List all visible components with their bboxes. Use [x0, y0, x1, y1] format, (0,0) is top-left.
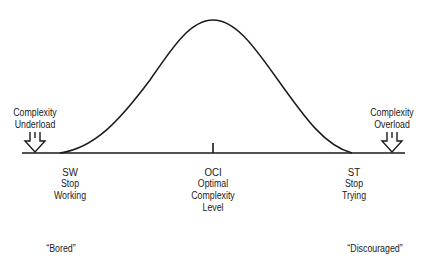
- point-abbr: OCI: [184, 166, 242, 178]
- complexity-underload-label: Complexity Underload: [6, 107, 64, 131]
- label-line: Complexity: [184, 190, 242, 202]
- label-line: Overload: [364, 119, 420, 131]
- label-line: Trying: [334, 190, 374, 202]
- double-down-arrow-icon: [382, 132, 402, 152]
- label-line: Optimal: [184, 178, 242, 190]
- stop-trying-label: ST Stop Trying: [334, 166, 374, 202]
- label-line: Complexity: [6, 107, 64, 119]
- label-line: Level: [184, 202, 242, 214]
- label-line: Stop: [334, 178, 374, 190]
- bell-curve: [60, 20, 352, 153]
- complexity-overload-label: Complexity Overload: [364, 107, 420, 131]
- point-abbr: SW: [48, 166, 92, 178]
- point-abbr: ST: [334, 166, 374, 178]
- stop-working-label: SW Stop Working: [48, 166, 92, 202]
- label-line: Underload: [6, 119, 64, 131]
- optimal-complexity-label: OCI Optimal Complexity Level: [184, 166, 242, 214]
- double-down-arrow-icon: [25, 132, 45, 152]
- label-line: Working: [48, 190, 92, 202]
- diagram-canvas: [0, 0, 425, 277]
- discouraged-state-label: “Discouraged”: [340, 243, 410, 255]
- state-text: “Bored”: [39, 243, 83, 255]
- bored-state-label: “Bored”: [39, 243, 83, 255]
- label-line: Stop: [48, 178, 92, 190]
- state-text: “Discouraged”: [340, 243, 410, 255]
- label-line: Complexity: [364, 107, 420, 119]
